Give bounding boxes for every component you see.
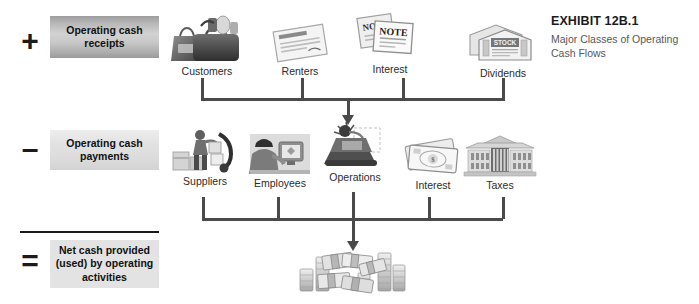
government-building-icon (458, 128, 542, 178)
node-interest-receipts: NOTE NOTE Interest (348, 6, 432, 75)
node-label: Interest (348, 63, 432, 75)
svg-text:NOTE: NOTE (379, 25, 408, 38)
node-dividends: STOCK Dividends (461, 10, 545, 79)
node-employees: Employees (238, 126, 322, 189)
operating-cash-payments-label: Operating cash payments (50, 130, 159, 170)
plus-sign: + (14, 26, 46, 56)
node-customers: Customers (165, 8, 249, 77)
minus-sign: – (14, 134, 46, 164)
net-cash-provided-label: Net cash provided (used) by operating ac… (50, 240, 159, 288)
exhibit-subtitle: Major Classes of Operating Cash Flows (551, 32, 683, 61)
node-label: Employees (238, 177, 322, 189)
delivery-worker-icon (163, 124, 247, 174)
machinery-icon (313, 120, 397, 170)
cash-stacks-icon (292, 243, 414, 304)
node-taxes: Taxes (458, 128, 542, 191)
svg-text:STOCK: STOCK (494, 39, 517, 46)
node-operations: Operations (313, 120, 397, 183)
total-divider-rule (20, 231, 159, 233)
node-label: Suppliers (163, 175, 247, 187)
rental-agreement-icon (258, 8, 342, 64)
equals-sign: = (14, 246, 46, 276)
node-label: Renters (258, 65, 342, 77)
exhibit-caption: EXHIBIT 12B.1 Major Classes of Operating… (551, 14, 696, 61)
node-renters: Renters (258, 8, 342, 77)
node-suppliers: Suppliers (163, 124, 247, 187)
exhibit-diagram: + – = Operating cash receipts Operating … (0, 0, 699, 304)
promissory-notes-icon: NOTE NOTE (348, 6, 432, 62)
stock-certificates-icon: STOCK (461, 10, 545, 66)
operating-cash-receipts-label: Operating cash receipts (50, 16, 159, 58)
exhibit-title: EXHIBIT 12B.1 (551, 14, 696, 28)
shopping-bags-icon (165, 8, 249, 64)
node-label: Customers (165, 65, 249, 77)
node-label: Taxes (458, 179, 542, 191)
node-label: Operations (313, 171, 397, 183)
office-worker-icon (238, 126, 322, 176)
